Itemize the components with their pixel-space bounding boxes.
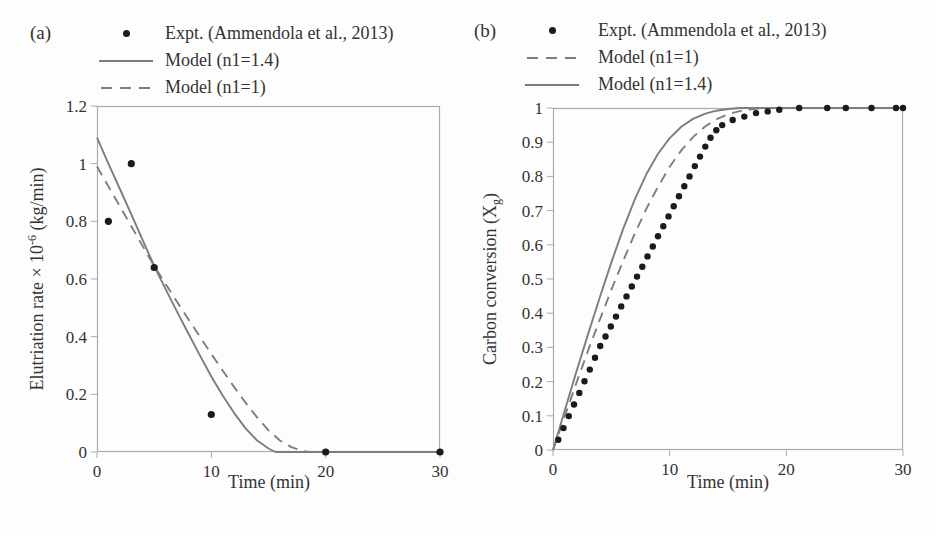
data-point [868, 105, 874, 111]
data-point [671, 203, 677, 209]
legend-item-model14-b: Model (n1=1.4) [524, 71, 826, 98]
carbon-conversion-chart: 010203000.10.20.30.40.50.60.70.80.91 [553, 108, 903, 450]
data-point [639, 264, 645, 270]
y-tick-label: 0.8 [522, 167, 543, 186]
x-axis-title-b: Time (min) [687, 472, 769, 493]
x-tick-label: 10 [203, 462, 220, 481]
data-point [719, 122, 725, 128]
y-tick-label: 0.9 [522, 133, 543, 152]
y-axis-title-b: Carbon conversion (Xg) [480, 193, 505, 365]
y-axis-title-a: Elutriation rate × 10-6 (kg/min) [25, 167, 48, 390]
data-point [587, 366, 593, 372]
data-point [824, 105, 830, 111]
x-tick-label: 10 [661, 460, 678, 479]
data-point [686, 173, 692, 179]
solid-line-marker-icon [525, 84, 579, 86]
data-point [702, 143, 708, 149]
y-tick-label: 1 [535, 99, 544, 118]
data-point [592, 355, 598, 361]
y-tick-label: 1 [79, 155, 88, 174]
legend-b: Expt. (Ammendola et al., 2013) Model (n1… [524, 17, 826, 98]
panel-a-label: (a) [30, 22, 51, 44]
data-point [566, 413, 572, 419]
data-point [665, 213, 671, 219]
y-tick-label: 0.6 [522, 236, 543, 255]
y-axis-title-a-text: Elutriation rate × 10 [27, 245, 47, 391]
data-point [741, 113, 747, 119]
legend-marker-cell [98, 60, 154, 62]
x-tick-label: 30 [895, 460, 912, 479]
y-tick-label: 0.8 [66, 212, 87, 231]
y-tick-label: 0.4 [66, 328, 88, 347]
model-curve-solid [553, 108, 903, 450]
legend-marker-cell [524, 84, 580, 86]
elutriation-rate-chart: 010203000.20.40.60.811.2 [97, 106, 440, 452]
data-point [660, 223, 666, 229]
legend-item-model1-b: Model (n1=1) [524, 44, 826, 71]
y-tick-label: 0.5 [522, 270, 543, 289]
legend-item-model1-a: Model (n1=1) [98, 74, 393, 101]
x-tick-label: 30 [432, 462, 449, 481]
legend-item-expt-a: Expt. (Ammendola et al., 2013) [98, 20, 393, 47]
plot-frame [98, 107, 440, 452]
data-point [692, 163, 698, 169]
y-tick-label: 0.2 [522, 373, 543, 392]
y-axis-title-b-text: Carbon conversion (X [480, 205, 500, 365]
x-tick-label: 0 [93, 462, 102, 481]
legend-marker-cell [524, 27, 580, 34]
data-point [655, 233, 661, 239]
y-axis-title-a-superscript: -6 [25, 235, 39, 245]
data-point [597, 343, 603, 349]
data-point [571, 401, 577, 407]
legend-label: Expt. (Ammendola et al., 2013) [598, 20, 826, 41]
model-curve-dashed [97, 167, 440, 453]
data-point [796, 105, 802, 111]
data-point [676, 193, 682, 199]
y-tick-label: 0.2 [66, 385, 87, 404]
data-point [555, 437, 561, 443]
y-tick-label: 0 [79, 443, 88, 462]
data-point [613, 313, 619, 319]
y-tick-label: 0.1 [522, 407, 543, 426]
dot-marker-icon [549, 27, 556, 34]
dot-marker-icon [123, 30, 130, 37]
legend-marker-cell [98, 30, 154, 37]
x-tick-label: 20 [778, 460, 795, 479]
data-point [730, 117, 736, 123]
data-point [560, 425, 566, 431]
y-tick-label: 0.6 [66, 270, 87, 289]
legend-label: Model (n1=1.4) [165, 50, 279, 71]
data-point [900, 105, 906, 111]
x-tick-label: 0 [549, 460, 558, 479]
data-point [608, 323, 614, 329]
data-point [634, 273, 640, 279]
data-point [436, 448, 443, 455]
y-tick-label: 0.3 [522, 338, 543, 357]
legend-item-model14-a: Model (n1=1.4) [98, 47, 393, 74]
dashed-line-marker-icon [101, 87, 151, 89]
data-point [650, 243, 656, 249]
y-tick-label: 0.7 [522, 202, 544, 221]
data-point [576, 390, 582, 396]
data-point [623, 293, 629, 299]
data-point [707, 135, 713, 141]
solid-line-marker-icon [99, 60, 153, 62]
x-axis-title-a: Time (min) [228, 472, 310, 493]
data-point [322, 448, 329, 455]
legend-marker-cell [98, 87, 154, 89]
y-tick-label: 1.2 [66, 97, 87, 116]
figure: (a) Expt. (Ammendola et al., 2013) Model… [0, 0, 936, 536]
data-point [128, 160, 135, 167]
model-curve-solid [97, 138, 440, 452]
data-point [843, 105, 849, 111]
data-point [618, 303, 624, 309]
data-point [713, 127, 719, 133]
y-axis-title-a-units: (kg/min) [27, 167, 47, 235]
data-point [151, 264, 158, 271]
data-point [681, 183, 687, 189]
legend-a: Expt. (Ammendola et al., 2013) Model (n1… [98, 20, 393, 101]
x-tick-label: 20 [317, 462, 334, 481]
legend-item-expt-b: Expt. (Ammendola et al., 2013) [524, 17, 826, 44]
experimental-points [105, 160, 444, 456]
y-tick-label: 0.4 [522, 304, 544, 323]
